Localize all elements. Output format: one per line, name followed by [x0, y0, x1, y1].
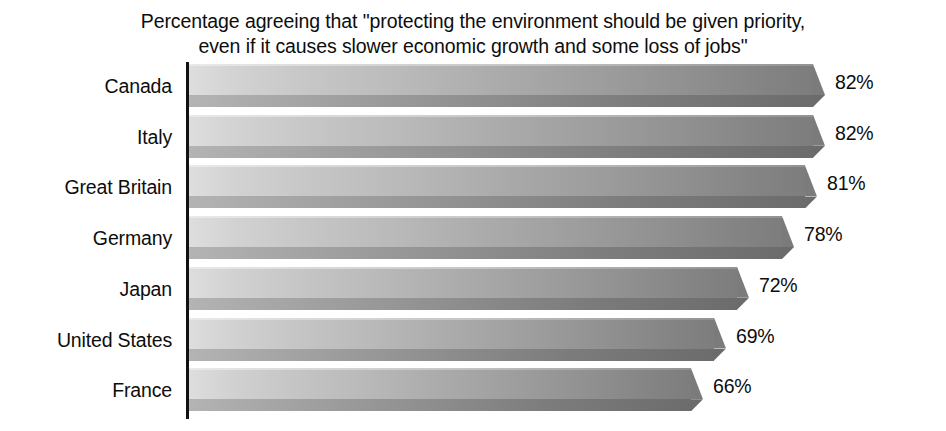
bar-top-face — [188, 368, 691, 399]
bar-top-highlight — [188, 216, 782, 218]
bar-canada — [188, 64, 825, 112]
value-label-canada: 82% — [835, 70, 873, 94]
plot-area: Canada82%Italy82%Great Britain81%Germany… — [0, 0, 946, 431]
bar-bottom-bevel — [813, 146, 825, 158]
bar-top-face — [188, 165, 805, 196]
bar-bottom-bevel — [813, 95, 825, 107]
value-label-great-britain: 81% — [827, 171, 865, 195]
bar-row: Japan72% — [0, 265, 946, 315]
bar-top-face — [188, 216, 782, 247]
bar-top-bevel — [737, 267, 749, 298]
value-label-france: 66% — [713, 374, 751, 398]
category-label-france: France — [0, 378, 172, 402]
bar-row: France66% — [0, 366, 946, 416]
bar-united-states — [188, 318, 726, 366]
value-axis-line — [186, 62, 189, 419]
bar-germany — [188, 216, 794, 264]
bar-top-highlight — [188, 318, 714, 320]
bar-great-britain — [188, 165, 817, 213]
bar-top-face — [188, 115, 813, 146]
bar-bottom-bevel — [714, 349, 726, 361]
bar-top-bevel — [714, 318, 726, 349]
category-label-canada: Canada — [0, 74, 172, 98]
bar-top-bevel — [782, 216, 794, 247]
bar-chart: Percentage agreeing that "protecting the… — [0, 0, 946, 431]
bar-row: United States69% — [0, 316, 946, 366]
bar-bottom-face — [188, 399, 691, 411]
bar-top-highlight — [188, 267, 737, 269]
bar-top-highlight — [188, 165, 805, 167]
bar-top-highlight — [188, 64, 813, 66]
category-label-japan: Japan — [0, 277, 172, 301]
bar-bottom-face — [188, 349, 714, 361]
bar-bottom-face — [188, 95, 813, 107]
bar-bottom-bevel — [691, 399, 703, 411]
bar-top-bevel — [805, 165, 817, 196]
category-label-germany: Germany — [0, 226, 172, 250]
value-label-united-states: 69% — [736, 324, 774, 348]
value-label-japan: 72% — [759, 273, 797, 297]
bar-top-bevel — [813, 115, 825, 146]
value-label-germany: 78% — [804, 222, 842, 246]
category-label-united-states: United States — [0, 328, 172, 352]
bar-bottom-face — [188, 298, 737, 310]
bar-bottom-face — [188, 146, 813, 158]
category-label-italy: Italy — [0, 125, 172, 149]
bar-top-bevel — [813, 64, 825, 95]
bar-top-highlight — [188, 115, 813, 117]
bar-bottom-bevel — [782, 247, 794, 259]
bar-top-face — [188, 267, 737, 298]
value-label-italy: 82% — [835, 121, 873, 145]
bar-top-highlight — [188, 368, 691, 370]
bar-top-face — [188, 318, 714, 349]
bar-japan — [188, 267, 749, 315]
bar-top-bevel — [691, 368, 703, 399]
bar-bottom-face — [188, 247, 782, 259]
bar-row: Canada82% — [0, 62, 946, 112]
bar-bottom-bevel — [737, 298, 749, 310]
bar-bottom-bevel — [805, 196, 817, 208]
category-label-great-britain: Great Britain — [0, 175, 172, 199]
bar-row: Italy82% — [0, 113, 946, 163]
bar-row: Germany78% — [0, 214, 946, 264]
bar-italy — [188, 115, 825, 163]
bar-france — [188, 368, 703, 416]
bar-bottom-face — [188, 196, 805, 208]
bar-top-face — [188, 64, 813, 95]
bar-row: Great Britain81% — [0, 163, 946, 213]
